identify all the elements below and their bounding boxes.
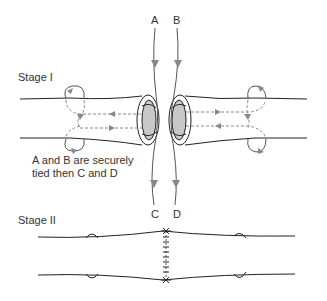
stage-2-label: Stage II [18,214,56,226]
stage-1: Stage I A B [18,14,307,220]
suture-label-c: C [151,208,159,220]
stage-2: Stage II [18,214,295,283]
right-vessel [169,95,307,145]
instruction-note-line2: tied then C and D [32,167,118,179]
instruction-note-line1: A and B are securely [32,154,134,166]
suture-label-a: A [151,14,159,26]
suture-line [161,228,171,283]
suture-label-b: B [173,14,180,26]
suture-label-d: D [173,208,181,220]
joined-vessel [38,228,295,283]
left-vessel [20,95,159,145]
vascular-anastomosis-diagram: Stage I A B [0,0,327,301]
stage-1-label: Stage I [18,71,53,83]
